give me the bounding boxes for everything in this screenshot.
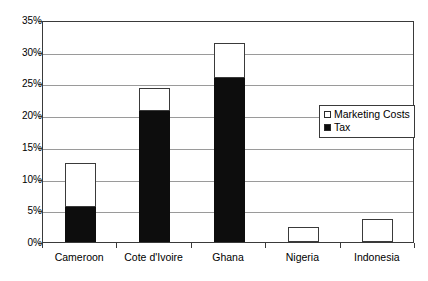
x-axis-tick-label: Nigeria: [286, 251, 319, 263]
bar-segment-marketing-costs: [214, 43, 245, 78]
legend-label-marketing-costs: Marketing Costs: [334, 109, 410, 120]
y-axis-tick-label: 25%: [8, 79, 42, 89]
white-square-icon: [324, 111, 331, 118]
y-axis-tick-label: 0%: [8, 238, 42, 248]
x-axis-tick-label: Indonesia: [354, 251, 400, 263]
y-axis-tick-label: 35%: [8, 16, 42, 26]
x-axis-tick-mark: [414, 243, 415, 248]
y-axis-tick-label: 5%: [8, 206, 42, 216]
y-axis-tick-label: 10%: [8, 175, 42, 185]
legend-item-marketing-costs: Marketing Costs: [324, 108, 410, 121]
bar-segment-marketing-costs: [288, 227, 319, 242]
bar-segment-tax: [65, 207, 96, 242]
x-axis-tick-label: Ghana: [212, 251, 244, 263]
legend-label-tax: Tax: [334, 122, 350, 133]
x-axis-tick-mark: [42, 243, 43, 248]
y-axis-tick-label: 15%: [8, 143, 42, 153]
plot-area: Marketing Costs Tax: [42, 21, 414, 243]
x-axis-tick-label: Cote d'Ivoire: [124, 251, 183, 263]
bar-segment-tax: [139, 111, 170, 242]
bar-group: [214, 20, 245, 242]
bar-segment-tax: [214, 78, 245, 242]
y-axis-tick-label: 30%: [8, 48, 42, 58]
x-axis-tick-label: Cameroon: [55, 251, 104, 263]
stacked-bar-chart: 0%5%10%15%20%25%30%35% Marketing Costs T…: [0, 0, 428, 281]
x-axis-tick-mark: [116, 243, 117, 248]
bar-group: [65, 20, 96, 242]
x-axis-tick-mark: [265, 243, 266, 248]
black-square-icon: [324, 124, 331, 131]
legend: Marketing Costs Tax: [319, 105, 415, 138]
bar-segment-marketing-costs: [65, 163, 96, 207]
y-axis: 0%5%10%15%20%25%30%35%: [0, 0, 42, 281]
x-axis-tick-mark: [191, 243, 192, 248]
legend-item-tax: Tax: [324, 121, 410, 134]
x-axis-tick-mark: [340, 243, 341, 248]
y-axis-tick-label: 20%: [8, 111, 42, 121]
bar-group: [288, 20, 319, 242]
bar-group: [139, 20, 170, 242]
bar-segment-marketing-costs: [139, 88, 170, 111]
bar-segment-marketing-costs: [362, 219, 393, 242]
